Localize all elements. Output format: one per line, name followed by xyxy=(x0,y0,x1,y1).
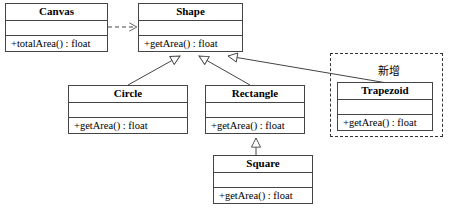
class-attributes-shape xyxy=(139,21,242,36)
class-operations-shape: +getArea() : float xyxy=(139,36,242,51)
class-box-canvas[interactable]: Canvas +totalArea() : float xyxy=(5,3,108,52)
class-attributes-rectangle xyxy=(206,103,304,118)
relation-rectangle-extends-shape xyxy=(199,56,250,85)
class-name-rectangle: Rectangle xyxy=(206,86,304,103)
class-operations-rectangle: +getArea() : float xyxy=(206,118,304,133)
class-box-trapezoid[interactable]: Trapezoid +getArea() : float xyxy=(337,82,433,131)
class-operations-square: +getArea() : float xyxy=(214,188,312,203)
class-operations-trapezoid: +getArea() : float xyxy=(338,115,432,130)
class-attributes-square xyxy=(214,173,312,188)
class-name-trapezoid: Trapezoid xyxy=(338,83,432,100)
class-attributes-canvas xyxy=(6,21,107,36)
class-operations-canvas: +totalArea() : float xyxy=(6,36,107,51)
class-box-square[interactable]: Square +getArea() : float xyxy=(213,155,313,204)
class-name-square: Square xyxy=(214,156,312,173)
class-box-circle[interactable]: Circle +getArea() : float xyxy=(68,85,188,134)
class-name-canvas: Canvas xyxy=(6,4,107,21)
class-name-shape: Shape xyxy=(139,4,242,21)
uml-class-diagram: 新增 Canvas +totalArea() : float Shape +ge… xyxy=(0,0,450,213)
class-name-circle: Circle xyxy=(69,86,187,103)
class-operations-circle: +getArea() : float xyxy=(69,118,187,133)
class-attributes-circle xyxy=(69,103,187,118)
class-attributes-trapezoid xyxy=(338,100,432,115)
relation-circle-extends-shape xyxy=(128,56,180,85)
new-feature-note-label: 新增 xyxy=(378,62,400,78)
class-box-rectangle[interactable]: Rectangle +getArea() : float xyxy=(205,85,305,134)
class-box-shape[interactable]: Shape +getArea() : float xyxy=(138,3,243,52)
